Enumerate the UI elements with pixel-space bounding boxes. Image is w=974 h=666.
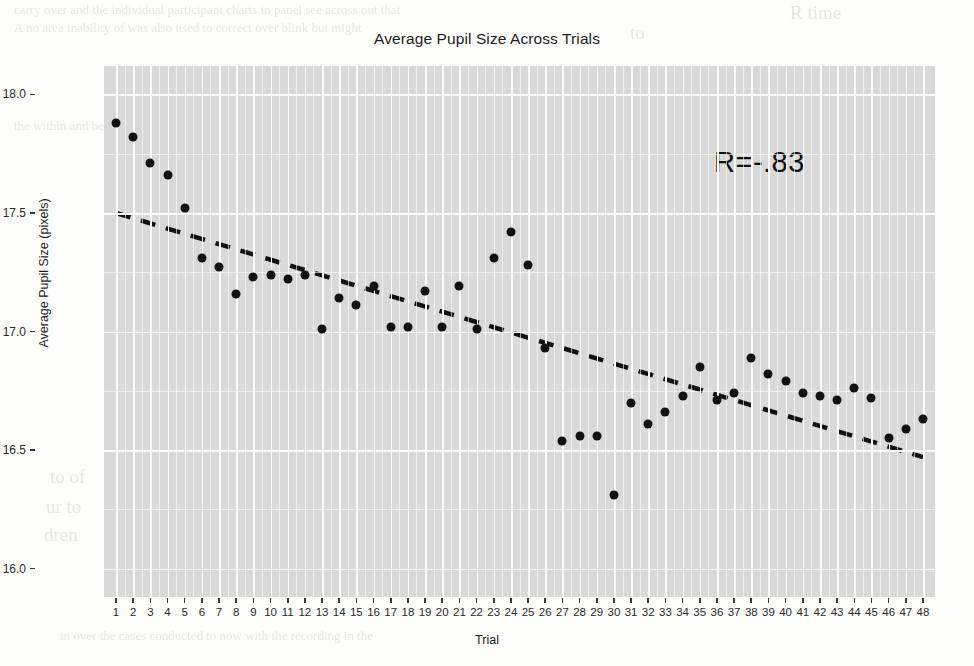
x-axis-tick xyxy=(665,598,667,603)
x-axis-tick xyxy=(733,598,735,603)
gridline-major-x xyxy=(202,66,204,597)
x-axis-tick-label: 41 xyxy=(796,606,809,618)
gridline-major-x xyxy=(305,66,307,597)
x-axis-tick-label: 16 xyxy=(367,606,380,618)
x-axis-tick xyxy=(493,598,495,603)
gridline-minor-x xyxy=(691,66,692,597)
x-axis-tick-label: 26 xyxy=(539,606,552,618)
gridline-major-x xyxy=(356,66,358,597)
data-point xyxy=(455,282,464,291)
data-point xyxy=(249,272,258,281)
chart-title: Average Pupil Size Across Trials xyxy=(0,30,974,48)
gridline-minor-x xyxy=(399,66,400,597)
x-axis-tick xyxy=(510,598,512,603)
x-axis-tick xyxy=(785,598,787,603)
gridline-minor-x xyxy=(777,66,778,597)
gridline-minor-x xyxy=(193,66,194,597)
gridline-major-x xyxy=(374,66,376,597)
x-axis-tick-label: 25 xyxy=(522,606,535,618)
gridline-minor-x xyxy=(897,66,898,597)
data-point xyxy=(575,431,584,440)
gridline-minor-x xyxy=(537,66,538,597)
x-axis-tick-label: 44 xyxy=(848,606,861,618)
x-axis-tick xyxy=(201,598,203,603)
y-axis-title: Average Pupil Size (pixels) xyxy=(37,133,51,413)
x-axis-tick-label: 2 xyxy=(130,606,136,618)
x-axis-tick-label: 6 xyxy=(199,606,205,618)
x-axis-tick-label: 43 xyxy=(831,606,844,618)
gridline-major-x xyxy=(906,66,908,597)
x-axis-tick-label: 24 xyxy=(505,606,518,618)
x-axis-tick xyxy=(544,598,546,603)
x-axis-tick xyxy=(184,598,186,603)
x-axis-tick xyxy=(682,598,684,603)
gridline-major-x xyxy=(751,66,753,597)
data-point xyxy=(197,254,206,263)
x-axis-tick xyxy=(871,598,873,603)
x-axis-tick xyxy=(647,598,649,603)
x-axis-tick xyxy=(613,598,615,603)
y-axis-tick-label: 16.5 xyxy=(3,443,26,457)
data-point xyxy=(163,171,172,180)
x-axis-tick-label: 5 xyxy=(181,606,187,618)
gridline-major-x xyxy=(631,66,633,597)
x-axis-tick-label: 17 xyxy=(384,606,397,618)
x-axis-title: Trial xyxy=(0,633,974,647)
gridline-minor-x xyxy=(331,66,332,597)
gridline-minor-x xyxy=(829,66,830,597)
x-axis-tick xyxy=(218,598,220,603)
data-point xyxy=(592,431,601,440)
gridline-major-x xyxy=(717,66,719,597)
x-axis-tick xyxy=(750,598,752,603)
data-point xyxy=(815,391,824,400)
gridline-major-x xyxy=(133,66,135,597)
gridline-minor-x xyxy=(451,66,452,597)
data-point xyxy=(472,325,481,334)
gridline-major-x xyxy=(236,66,238,597)
x-axis-tick-label: 4 xyxy=(164,606,170,618)
gridline-minor-x xyxy=(296,66,297,597)
data-point xyxy=(833,396,842,405)
gridline-minor-x xyxy=(125,66,126,597)
x-axis-tick-label: 20 xyxy=(436,606,449,618)
data-point xyxy=(764,370,773,379)
gridline-major-x xyxy=(168,66,170,597)
data-point xyxy=(747,353,756,362)
gridline-major-x xyxy=(339,66,341,597)
x-axis-tick-label: 9 xyxy=(250,606,256,618)
gridline-major-x xyxy=(786,66,788,597)
data-point xyxy=(798,389,807,398)
x-axis-tick xyxy=(802,598,804,603)
gridline-major-x xyxy=(597,66,599,597)
gridline-major-x xyxy=(511,66,513,597)
gridline-minor-x xyxy=(760,66,761,597)
gridline-major-x xyxy=(700,66,702,597)
y-axis-tick xyxy=(30,94,35,96)
x-axis-tick-label: 37 xyxy=(728,606,741,618)
data-point xyxy=(678,391,687,400)
gridline-major-x xyxy=(665,66,667,597)
data-point xyxy=(335,294,344,303)
data-point xyxy=(695,363,704,372)
data-point xyxy=(506,227,515,236)
y-axis-tick xyxy=(30,568,35,570)
data-point xyxy=(524,261,533,270)
x-axis-tick xyxy=(424,598,426,603)
gridline-minor-x xyxy=(228,66,229,597)
data-point xyxy=(300,270,309,279)
gridline-minor-x xyxy=(142,66,143,597)
x-axis-tick xyxy=(407,598,409,603)
gridline-major-x xyxy=(614,66,616,597)
x-axis-tick xyxy=(579,598,581,603)
x-axis-tick-label: 36 xyxy=(711,606,724,618)
data-point xyxy=(129,133,138,142)
data-point xyxy=(730,389,739,398)
gridline-minor-x xyxy=(640,66,641,597)
x-axis-tick-label: 32 xyxy=(642,606,655,618)
gridline-minor-x xyxy=(674,66,675,597)
x-axis-tick xyxy=(132,598,134,603)
data-point xyxy=(850,384,859,393)
x-axis-tick xyxy=(167,598,169,603)
gridline-minor-x xyxy=(554,66,555,597)
x-axis-tick-label: 45 xyxy=(865,606,878,618)
